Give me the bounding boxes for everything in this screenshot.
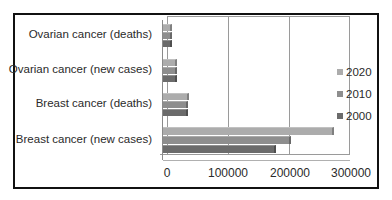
legend-label: 2000 <box>346 110 372 122</box>
bar-2000 <box>163 145 276 153</box>
tick-label: 0 <box>164 166 171 180</box>
plot-floor <box>160 154 350 155</box>
bar-2010 <box>163 67 177 74</box>
bar-2000 <box>163 75 177 82</box>
legend-item-2010: 2010 <box>337 88 372 100</box>
bar-2010 <box>163 32 172 39</box>
bar-2000 <box>163 40 172 47</box>
category-label: Ovarian cancer (new cases) <box>9 63 152 75</box>
legend-item-2020: 2020 <box>337 66 372 78</box>
legend-label: 2020 <box>346 66 372 78</box>
bar-2010 <box>163 101 188 108</box>
legend-swatch <box>337 91 343 97</box>
bar-2000 <box>163 109 188 116</box>
legend-item-2000: 2000 <box>337 110 372 122</box>
legend-swatch <box>337 113 343 119</box>
tick-label: 300000 <box>331 166 371 180</box>
bar-2020 <box>163 127 334 135</box>
bar-2020 <box>163 24 172 31</box>
bar-2020 <box>163 93 189 100</box>
category-label: Breast cancer (deaths) <box>36 97 152 109</box>
legend-label: 2010 <box>346 88 372 100</box>
bar-2020 <box>163 59 177 66</box>
legend-swatch <box>337 69 343 75</box>
category-label: Breast cancer (new cases) <box>16 133 152 145</box>
bar-2010 <box>163 136 291 144</box>
tick-label: 200000 <box>270 166 310 180</box>
category-label: Ovarian cancer (deaths) <box>29 28 152 40</box>
plot-floor-front <box>163 160 350 161</box>
tick-label: 100000 <box>208 166 248 180</box>
